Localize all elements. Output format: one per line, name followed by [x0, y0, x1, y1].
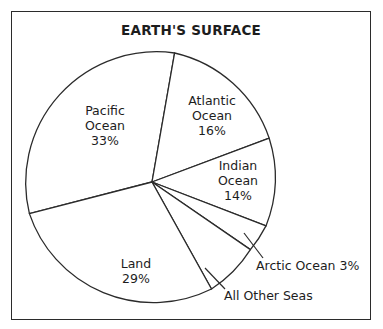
- pie-label-land-line1: Land: [96, 257, 176, 272]
- pie-label-indian-ocean: Indian Ocean 14%: [198, 159, 278, 203]
- pie-label-land: Land 29%: [96, 257, 176, 287]
- pie-label-land-value: 29%: [96, 272, 176, 287]
- pie-label-atlantic-ocean-line1: Atlantic: [170, 94, 254, 109]
- pie-label-arctic-ocean: Arctic Ocean 3%: [256, 259, 359, 274]
- pie-label-pacific-ocean-value: 33%: [65, 134, 145, 149]
- pie-label-pacific-ocean-line2: Ocean: [65, 119, 145, 134]
- pie-label-pacific-ocean: Pacific Ocean 33%: [65, 104, 145, 148]
- pie-label-all-other-seas-text: All Other Seas: [224, 288, 313, 303]
- pie-label-indian-ocean-line1: Indian: [198, 159, 278, 174]
- pie-label-atlantic-ocean: Atlantic Ocean 16%: [170, 94, 254, 138]
- pie-label-indian-ocean-line2: Ocean: [198, 174, 278, 189]
- pie-chart-graphic: [1, 1, 383, 329]
- pie-label-indian-ocean-value: 14%: [198, 189, 278, 204]
- pie-label-all-other-seas: All Other Seas: [224, 289, 313, 304]
- chart-frame: EARTH'S SURFACE Pacific Ocean 33% Atlant…: [11, 11, 371, 320]
- pie-label-pacific-ocean-line1: Pacific: [65, 104, 145, 119]
- pie-label-atlantic-ocean-value: 16%: [170, 124, 254, 139]
- pie-label-arctic-ocean-text: Arctic Ocean 3%: [256, 258, 359, 273]
- pie-label-atlantic-ocean-line2: Ocean: [170, 109, 254, 124]
